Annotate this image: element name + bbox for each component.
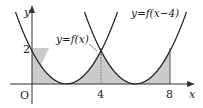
y-axis-label: y xyxy=(23,6,31,19)
curve-label-f-x: y=f(x) xyxy=(55,33,89,45)
x-tick-8: 8 xyxy=(166,88,173,101)
x-axis-label: x xyxy=(189,88,196,101)
label-leader-f xyxy=(89,44,97,51)
x-axis-arrow-icon xyxy=(187,81,195,87)
origin-label: O xyxy=(20,89,29,102)
curve-label-f-x-minus-4: y=f(x−4) xyxy=(130,7,179,19)
y-tick-2: 2 xyxy=(23,43,30,56)
x-tick-4: 4 xyxy=(97,88,104,101)
function-graph-figure: y x O 2 4 8 y=f(x) y=f(x−4) xyxy=(0,0,203,108)
